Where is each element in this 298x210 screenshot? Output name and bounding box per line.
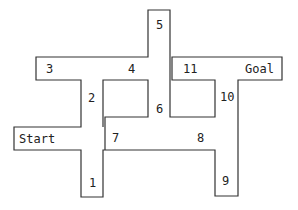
label-11: 11 <box>183 63 197 75</box>
label-8: 8 <box>197 132 204 144</box>
label-3: 3 <box>46 63 53 75</box>
maze-outline <box>0 0 298 210</box>
label-start: Start <box>19 133 55 145</box>
label-7: 7 <box>112 132 119 144</box>
label-6: 6 <box>156 103 163 115</box>
label-2: 2 <box>88 92 95 104</box>
label-10: 10 <box>220 91 234 103</box>
label-9: 9 <box>222 175 229 187</box>
label-5: 5 <box>156 19 163 31</box>
inner-block-left <box>103 80 148 150</box>
label-goal: Goal <box>245 63 274 75</box>
label-1: 1 <box>89 177 96 189</box>
label-4: 4 <box>128 63 135 75</box>
